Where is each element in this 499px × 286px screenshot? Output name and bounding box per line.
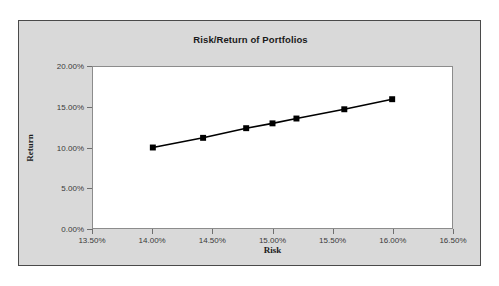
x-tick-mark [333,229,334,234]
data-series-line [93,67,452,228]
x-tick-label: 14.00% [120,236,184,245]
data-point-marker [150,145,156,151]
data-point-marker [341,106,347,112]
x-tick-label: 16.50% [421,236,485,245]
x-tick-mark [273,229,274,234]
x-tick-mark [92,229,93,234]
x-tick-label: 16.00% [361,236,425,245]
x-tick-mark [453,229,454,234]
data-point-marker [243,125,249,131]
series-markers [150,96,395,150]
x-tick-mark [152,229,153,234]
chart-plate: Risk/Return of Portfolios Return Risk 0.… [18,20,481,266]
plot-area [92,66,453,229]
data-point-marker [389,96,395,102]
x-tick-mark [212,229,213,234]
chart-figure: Risk/Return of Portfolios Return Risk 0.… [0,0,499,286]
data-point-marker [270,120,276,126]
x-tick-mark [393,229,394,234]
x-tick-label: 15.00% [241,236,305,245]
data-point-marker [293,116,299,122]
data-point-marker [200,135,206,141]
x-tick-label: 14.50% [180,236,244,245]
x-tick-label: 15.50% [301,236,365,245]
x-tick-label: 13.50% [60,236,124,245]
